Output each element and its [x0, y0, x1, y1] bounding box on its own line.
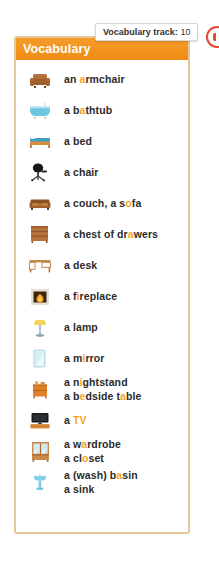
vocabulary-item[interactable]: an armchair [16, 64, 188, 95]
vocabulary-item-label: a desk [60, 259, 97, 273]
tooltip-label: Vocabulary track: [103, 27, 178, 37]
fireplace-icon [20, 282, 60, 311]
label-text: rmchair [85, 73, 124, 85]
vocabulary-item-line: a mirror [64, 352, 105, 366]
label-text: a chest of dr [64, 228, 128, 240]
vocabulary-item-label: a couch, a sofa [60, 197, 141, 211]
vocabulary-item-line: a chair [64, 166, 99, 180]
vocabulary-item-line: a chest of drawers [64, 228, 158, 242]
label-text: an [64, 73, 79, 85]
vocabulary-item-line: a wardrobe [64, 438, 121, 452]
label-text: a b [64, 390, 79, 402]
label-text: sin [122, 469, 137, 481]
label-text: ble [126, 390, 141, 402]
vocabulary-item[interactable]: a wardrobea closet [16, 436, 188, 467]
vocabulary-item-label: a chest of drawers [60, 228, 158, 242]
bed-icon [20, 127, 60, 156]
label-text: replace [80, 290, 117, 302]
label-text: dside t [85, 390, 120, 402]
vocabulary-item-line: a bathtub [64, 104, 112, 118]
tv-icon [20, 406, 60, 435]
vocabulary-item-line: a lamp [64, 321, 98, 335]
vocabulary-item[interactable]: a bathtub [16, 95, 188, 126]
lamp-icon [20, 313, 60, 342]
vocabulary-item-label: a nightstanda bedside table [60, 376, 141, 404]
label-text: a b [64, 104, 79, 116]
vocabulary-item[interactable]: a lamp [16, 312, 188, 343]
label-text: fa [132, 197, 142, 209]
vocabulary-item-label: a mirror [60, 352, 105, 366]
mirror-icon [20, 344, 60, 373]
washbasin-icon [20, 468, 60, 497]
label-text: a [64, 414, 73, 426]
label-text: a sink [64, 483, 94, 495]
vocabulary-item[interactable]: a chest of drawers [16, 219, 188, 250]
label-text: a lamp [64, 321, 98, 333]
vocabulary-item-line: a bed [64, 135, 92, 149]
label-text: rror [85, 352, 104, 364]
vocabulary-item-label: an armchair [60, 73, 125, 87]
vocabulary-item[interactable]: a fireplace [16, 281, 188, 312]
vocabulary-item[interactable]: a desk [16, 250, 188, 281]
label-text: a couch, a s [64, 197, 125, 209]
vocabulary-item-label: a bed [60, 135, 92, 149]
label-text: a chair [64, 166, 99, 178]
label-text: a w [64, 438, 81, 450]
wardrobe-icon [20, 437, 60, 466]
label-text: thtub [85, 104, 112, 116]
tooltip-value: 10 [180, 27, 190, 37]
vocabulary-item[interactable]: a chair [16, 157, 188, 188]
vocabulary-item-line: a TV [64, 414, 87, 428]
armchair-icon [20, 65, 60, 94]
vocabulary-item-line: an armchair [64, 73, 125, 87]
highlighted-letter: TV [73, 414, 87, 426]
vocabulary-item[interactable]: a mirror [16, 343, 188, 374]
vocabulary-item[interactable]: a TV [16, 405, 188, 436]
vocabulary-item-label: a chair [60, 166, 99, 180]
bathtub-icon [20, 96, 60, 125]
vocabulary-item-line: a sink [64, 483, 138, 497]
vocabulary-item[interactable]: a couch, a sofa [16, 188, 188, 219]
vocabulary-panel: Vocabulary an armchaira bathtuba beda ch… [14, 36, 190, 534]
label-text: a bed [64, 135, 92, 147]
vocabulary-item-line: a fireplace [64, 290, 117, 304]
vocabulary-item-label: a fireplace [60, 290, 117, 304]
vocabulary-item-line: a (wash) basin [64, 469, 138, 483]
label-text: wers [134, 228, 158, 240]
couch-icon [20, 189, 60, 218]
label-text: a f [64, 290, 77, 302]
vocabulary-item-line: a couch, a sofa [64, 197, 141, 211]
label-text: ghtstand [83, 376, 128, 388]
chest-of-drawers-icon [20, 220, 60, 249]
label-text: rdrobe [87, 438, 121, 450]
vocabulary-item-label: a TV [60, 414, 87, 428]
vocabulary-item-line: a closet [64, 452, 121, 466]
vocabulary-item-label: a wardrobea closet [60, 438, 121, 466]
vocabulary-item[interactable]: a (wash) basina sink [16, 467, 188, 498]
vocabulary-item-line: a bedside table [64, 390, 141, 404]
label-text: a (wash) b [64, 469, 116, 481]
panel-header: Vocabulary [16, 38, 188, 60]
label-text: a desk [64, 259, 97, 271]
vocabulary-list: an armchaira bathtuba beda chaira couch,… [16, 60, 188, 498]
speaker-icon[interactable] [206, 26, 219, 48]
label-text: a m [64, 352, 82, 364]
vocabulary-item-line: a nightstand [64, 376, 141, 390]
vocabulary-item-line: a desk [64, 259, 97, 273]
desk-icon [20, 251, 60, 280]
vocabulary-item-label: a (wash) basina sink [60, 469, 138, 497]
label-text: a cl [64, 452, 82, 464]
vocabulary-item-label: a lamp [60, 321, 98, 335]
office-chair-icon [20, 158, 60, 187]
vocabulary-track-tooltip: Vocabulary track: 10 [95, 23, 198, 41]
vocabulary-item[interactable]: a nightstanda bedside table [16, 374, 188, 405]
vocabulary-item-label: a bathtub [60, 104, 112, 118]
label-text: a n [64, 376, 79, 388]
nightstand-icon [20, 375, 60, 404]
page-title: Vocabulary [23, 42, 90, 56]
vocabulary-item[interactable]: a bed [16, 126, 188, 157]
label-text: set [88, 452, 103, 464]
